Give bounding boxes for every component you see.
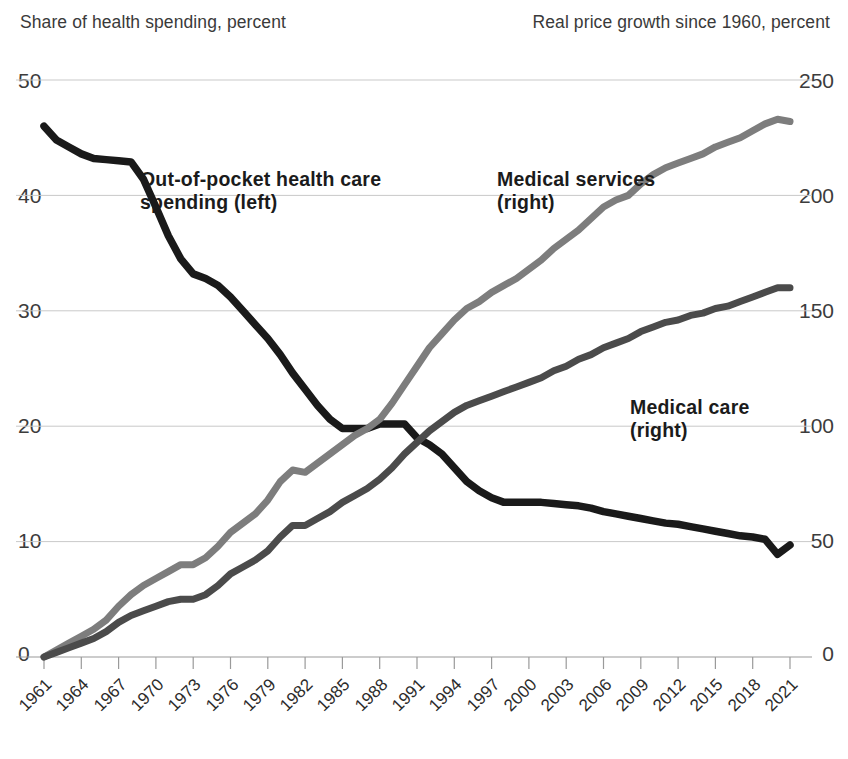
- plot-area: [0, 0, 848, 759]
- series-label-medical-care: Medical care (right): [630, 396, 749, 442]
- series-label-medical-services: Medical services (right): [497, 168, 655, 214]
- dual-axis-line-chart: Share of health spending, percent Real p…: [0, 0, 848, 759]
- series-label-out-of-pocket: Out-of-pocket health care spending (left…: [140, 168, 381, 214]
- series-line-medical-care: [44, 288, 790, 657]
